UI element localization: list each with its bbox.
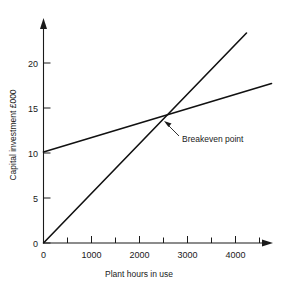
x-axis-minor-ticks — [68, 238, 260, 244]
x-tick-label-3000: 3000 — [177, 250, 197, 260]
x-tick-label-4000: 4000 — [225, 250, 245, 260]
x-tick-label-0: 0 — [41, 250, 46, 260]
y-tick-label-10: 10 — [28, 149, 38, 159]
x-axis-arrowhead — [262, 240, 273, 247]
breakeven-chart: 0 5 10 15 20 0 1000 2000 3000 — [0, 0, 291, 285]
breakeven-annotation: Breakeven point — [164, 121, 244, 144]
x-axis — [44, 240, 274, 247]
y-tick-label-5: 5 — [33, 194, 38, 204]
x-tick-label-1000: 1000 — [81, 250, 101, 260]
y-axis-ticks — [44, 63, 51, 243]
x-axis-title: Plant hours in use — [105, 269, 173, 279]
chart-canvas: 0 5 10 15 20 0 1000 2000 3000 — [0, 0, 291, 285]
y-axis-title: Capital investment £000 — [8, 89, 18, 180]
y-tick-label-0: 0 — [33, 239, 38, 249]
y-axis — [40, 18, 47, 243]
breakeven-arrowhead — [164, 121, 172, 127]
y-axis-tick-labels: 0 5 10 15 20 — [28, 59, 38, 249]
x-axis-major-ticks — [44, 236, 236, 243]
x-axis-tick-labels: 0 1000 2000 3000 4000 — [41, 250, 246, 260]
y-tick-label-20: 20 — [28, 59, 38, 69]
breakeven-point-label: Breakeven point — [182, 134, 244, 144]
x-tick-label-2000: 2000 — [129, 250, 149, 260]
y-axis-arrowhead — [40, 18, 47, 29]
y-tick-label-15: 15 — [28, 104, 38, 114]
